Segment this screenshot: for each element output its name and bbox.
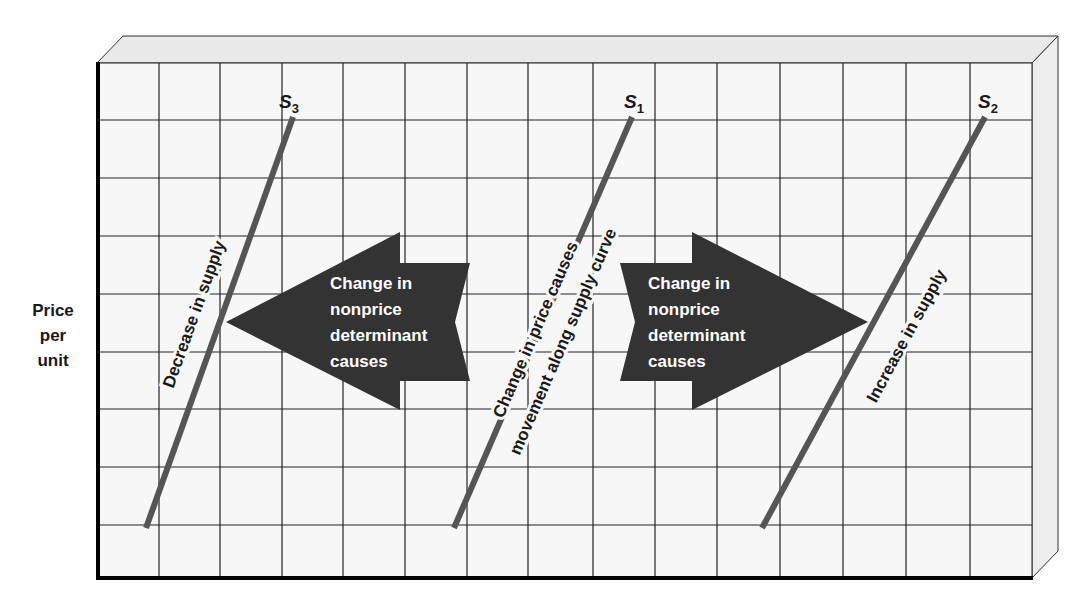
right-arrow-text-line: causes	[648, 352, 706, 371]
box-right-face	[1032, 36, 1058, 578]
right-arrow-text-line: determinant	[648, 326, 746, 345]
supply-shift-diagram: Change in nonprice determinant causes Ch…	[0, 0, 1082, 601]
left-arrow-text-line: determinant	[330, 326, 428, 345]
left-arrow-text-line: causes	[330, 352, 388, 371]
box-top-face	[97, 36, 1058, 63]
left-arrow-text-line: nonprice	[330, 300, 402, 319]
right-arrow-text-line: Change in	[648, 274, 730, 293]
left-arrow-text-line: Change in	[330, 274, 412, 293]
right-arrow-text-line: nonprice	[648, 300, 720, 319]
